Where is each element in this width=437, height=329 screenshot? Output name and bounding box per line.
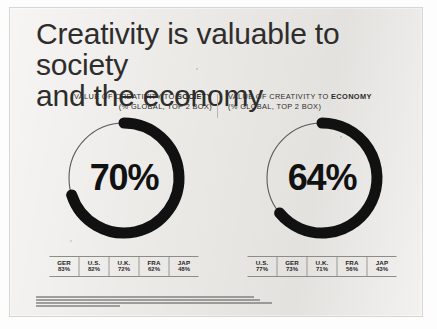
table-society-val-2: 72%	[115, 266, 134, 274]
scan-background: Creativity is valuable to society and th…	[0, 0, 437, 329]
table-row: FRA 62%	[139, 257, 169, 276]
donut-society-value: 70%	[58, 112, 190, 244]
table-economy-col-3: FRA	[343, 259, 362, 266]
panel-economy-kicker: VALUE OF CREATIVITY TO ECONOMY (% GLOBAL…	[224, 92, 420, 111]
scan-speck	[70, 240, 72, 242]
table-society-col-4: JAP	[175, 259, 194, 266]
footnote-line	[36, 302, 272, 304]
footnote-line	[36, 296, 254, 298]
donut-economy-value: 64%	[256, 112, 388, 244]
table-economy-val-3: 56%	[343, 266, 362, 274]
table-economy: U.S. 77% GER 73% U.K. 71% FRA 56% JAP	[248, 256, 397, 277]
footnotes	[36, 296, 286, 308]
table-row: JAP 43%	[367, 257, 397, 276]
panel-society-kicker-prefix: VALUE OF CREATIVITY TO	[74, 92, 177, 101]
table-economy-val-4: 43%	[373, 266, 392, 274]
infographic-page: Creativity is valuable to society and th…	[9, 7, 423, 317]
table-economy-col-0: U.S.	[253, 259, 272, 266]
table-row: U.S. 82%	[79, 257, 109, 276]
panel-society-kicker-emphasis: SOCIETY	[177, 92, 212, 101]
table-society-col-3: FRA	[145, 259, 164, 266]
donut-economy: 64%	[256, 112, 388, 244]
table-economy-val-0: 77%	[253, 266, 272, 274]
table-society-val-1: 82%	[85, 266, 104, 274]
table-economy-val-1: 73%	[283, 266, 302, 274]
table-society-col-1: U.S.	[85, 259, 104, 266]
footnote-line	[36, 299, 260, 301]
panel-economy-kicker-emphasis: ECONOMY	[331, 92, 372, 101]
panel-economy-kicker-sub: (% GLOBAL, TOP 2 BOX)	[228, 102, 420, 112]
table-society-val-0: 83%	[55, 266, 74, 274]
panel-society-kicker-sub: (% GLOBAL, TOP 2 BOX)	[26, 102, 212, 112]
donut-economy-wrap: 64%	[224, 112, 420, 252]
table-society-val-4: 48%	[175, 266, 194, 274]
panel-society-kicker: VALUE OF CREATIVITY TO SOCIETY (% GLOBAL…	[26, 92, 222, 111]
table-row: JAP 48%	[169, 257, 199, 276]
table-society-col-2: U.K.	[115, 259, 134, 266]
table-society: GER 83% U.S. 82% U.K. 72% FRA 62% JAP	[50, 256, 199, 277]
table-economy-col-4: JAP	[373, 259, 392, 266]
table-society-col-0: GER	[55, 259, 74, 266]
table-society-val-3: 62%	[145, 266, 164, 274]
panel-economy: VALUE OF CREATIVITY TO ECONOMY (% GLOBAL…	[224, 92, 420, 308]
table-row: GER 83%	[50, 257, 79, 276]
table-row: GER 73%	[277, 257, 307, 276]
scan-speck	[340, 136, 342, 138]
footnote-line	[36, 305, 120, 307]
panel-society: VALUE OF CREATIVITY TO SOCIETY (% GLOBAL…	[26, 92, 222, 308]
table-row: U.S. 77%	[248, 257, 277, 276]
table-row: U.K. 72%	[109, 257, 139, 276]
donut-society-wrap: 70%	[26, 112, 222, 252]
table-economy-val-2: 71%	[313, 266, 332, 274]
scan-speck	[196, 68, 198, 70]
table-economy-col-2: U.K.	[313, 259, 332, 266]
table-row: FRA 56%	[337, 257, 367, 276]
donut-society: 70%	[58, 112, 190, 244]
table-row: U.K. 71%	[307, 257, 337, 276]
page-title-line1: Creativity is valuable to society	[36, 17, 339, 81]
table-economy-col-1: GER	[283, 259, 302, 266]
panel-economy-kicker-prefix: VALUE OF CREATIVITY TO	[228, 92, 331, 101]
